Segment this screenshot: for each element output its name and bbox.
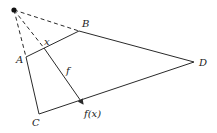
apex-point — [11, 7, 16, 12]
projection-diagram: B A x f D C f(x) — [0, 0, 217, 133]
label-c: C — [32, 117, 40, 128]
label-fx: f(x) — [83, 108, 101, 119]
dashed-ray-to-x — [14, 10, 44, 48]
label-f: f — [65, 65, 72, 76]
label-a: A — [15, 54, 23, 65]
segment-bd — [79, 31, 194, 62]
segment-ca — [26, 57, 39, 114]
segment-dc — [39, 62, 194, 114]
label-d: D — [198, 57, 207, 68]
dashed-ray-to-b — [14, 10, 79, 31]
label-x: x — [44, 36, 50, 47]
label-b: B — [81, 18, 89, 29]
mapping-arrow-f — [44, 48, 83, 104]
